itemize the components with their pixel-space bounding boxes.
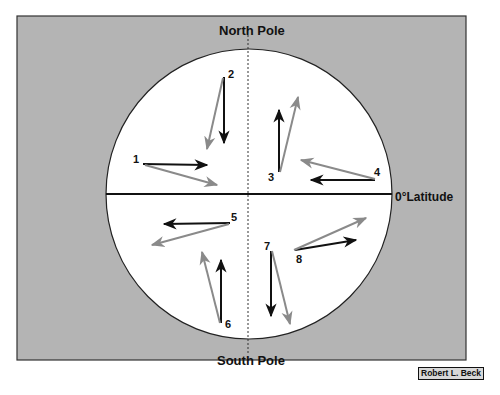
arrow-number-4: 4	[374, 166, 380, 178]
arrow-number-1: 1	[133, 153, 139, 165]
arrow-number-3: 3	[268, 171, 274, 183]
intended-arrow-5	[164, 223, 230, 224]
arrow-number-2: 2	[228, 68, 234, 80]
equator-degree: 0°	[395, 190, 406, 204]
arrow-number-6: 6	[225, 318, 231, 330]
arrow-number-8: 8	[296, 253, 302, 265]
south-pole-label: South Pole	[217, 353, 285, 368]
north-pole-label: North Pole	[219, 23, 285, 38]
arrow-number-7: 7	[264, 240, 270, 252]
coriolis-diagram: North Pole South Pole 0°Latitude 1 2 3 4…	[0, 0, 500, 395]
author-credit: Robert L. Beck	[418, 367, 484, 380]
intended-arrow-1	[143, 164, 207, 165]
equator-label: 0°Latitude	[395, 190, 453, 204]
equator-text: Latitude	[406, 190, 453, 204]
arrow-number-5: 5	[231, 211, 237, 223]
